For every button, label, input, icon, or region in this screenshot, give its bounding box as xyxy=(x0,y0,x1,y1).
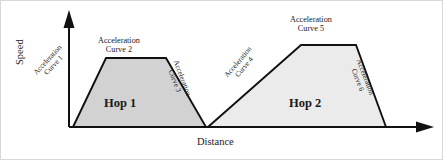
x-axis-arrow-icon xyxy=(416,122,434,133)
chart-plot-area xyxy=(1,1,443,160)
hop2-shape xyxy=(208,45,386,127)
hop1-shape xyxy=(73,58,206,127)
y-axis-arrow-icon xyxy=(64,10,75,28)
speed-distance-hop-diagram: Speed Distance Acceleration Curve 1 Acce… xyxy=(0,0,443,160)
